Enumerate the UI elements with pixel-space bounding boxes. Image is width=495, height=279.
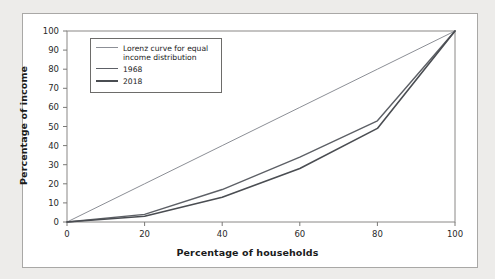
chart-legend: Lorenz curve for equal income distributi…	[90, 38, 222, 93]
y-tick-label: 80	[29, 64, 59, 74]
legend-item[interactable]: 2018	[96, 77, 216, 86]
x-tick-label: 20	[130, 229, 160, 239]
legend-swatch-icon	[96, 44, 118, 52]
legend-label: Lorenz curve for equal income distributi…	[123, 44, 208, 62]
x-tick-label: 60	[285, 229, 315, 239]
x-tick-label: 100	[440, 229, 470, 239]
y-axis-title: Percentage of income	[18, 51, 29, 201]
y-tick-label: 60	[29, 102, 59, 112]
x-tick-label: 0	[52, 229, 82, 239]
y-tick-label: 100	[29, 26, 59, 36]
legend-item[interactable]: Lorenz curve for equal income distributi…	[96, 44, 216, 62]
legend-label: 2018	[123, 77, 142, 86]
y-tick-label: 10	[29, 198, 59, 208]
y-tick-label: 50	[29, 122, 59, 132]
y-tick-label: 90	[29, 45, 59, 55]
figure-page: 0102030405060708090100 020406080100 Perc…	[0, 0, 495, 279]
legend-item[interactable]: 1968	[96, 65, 216, 74]
legend-swatch-icon	[96, 65, 118, 73]
legend-label: 1968	[123, 65, 142, 74]
y-tick-label: 30	[29, 160, 59, 170]
y-tick-label: 20	[29, 179, 59, 189]
x-axis-ticks	[67, 222, 455, 226]
y-axis-ticks	[63, 31, 67, 222]
y-tick-label: 40	[29, 141, 59, 151]
x-tick-label: 40	[207, 229, 237, 239]
y-tick-label: 0	[29, 217, 59, 227]
x-tick-label: 80	[362, 229, 392, 239]
x-axis-title: Percentage of households	[0, 247, 495, 258]
legend-swatch-icon	[96, 77, 118, 85]
y-tick-label: 70	[29, 83, 59, 93]
